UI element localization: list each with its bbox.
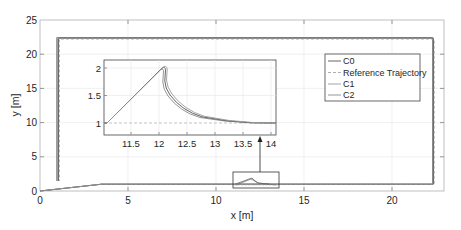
inset-xtick: 13 xyxy=(210,138,221,149)
x-axis-label: x [m] xyxy=(231,209,254,221)
main-ytick-labels: 0 5 10 15 20 25 xyxy=(26,15,38,197)
inset-xtick: 11.5 xyxy=(122,138,140,149)
inset-xtick: 13.5 xyxy=(234,138,253,149)
legend-label-reference: Reference Trajectory xyxy=(343,68,427,78)
xtick: 5 xyxy=(125,195,131,206)
xtick: 0 xyxy=(37,195,43,206)
legend-label-c2: C2 xyxy=(343,90,355,100)
ytick: 10 xyxy=(26,117,38,128)
ytick: 5 xyxy=(31,151,37,162)
y-axis-label: y [m] xyxy=(9,94,21,117)
main-xtick-labels: 0 5 10 15 20 xyxy=(37,195,398,206)
legend: C0 Reference Trajectory C1 C2 xyxy=(325,54,427,101)
xtick: 20 xyxy=(386,195,398,206)
inset-xtick: 12 xyxy=(154,138,165,149)
inset-ytick: 2 xyxy=(96,63,101,74)
legend-label-c1: C1 xyxy=(343,79,355,89)
inset-xtick: 14 xyxy=(266,138,277,149)
ytick: 15 xyxy=(26,83,38,94)
legend-label-c0: C0 xyxy=(343,56,355,66)
inset-axes xyxy=(104,60,276,135)
inset-xtick: 12.5 xyxy=(178,138,197,149)
ytick: 25 xyxy=(26,15,38,26)
ytick: 0 xyxy=(31,186,37,197)
ytick: 20 xyxy=(26,49,38,60)
inset-ytick: 1.5 xyxy=(88,90,101,101)
trajectory-figure: 11.5 12 12.5 13 13.5 14 1 1.5 2 C0 Refer… xyxy=(0,0,461,230)
inset-ytick: 1 xyxy=(96,118,101,129)
xtick: 15 xyxy=(298,195,310,206)
xtick: 10 xyxy=(210,195,222,206)
